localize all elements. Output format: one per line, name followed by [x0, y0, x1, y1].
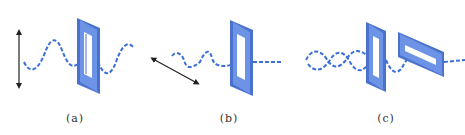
caption-c: (c) [371, 112, 401, 125]
panel-c [306, 22, 465, 92]
horizontal-polarizer [398, 32, 444, 77]
wave-unpolarized-2 [308, 53, 370, 71]
vertical-polarizer [230, 20, 253, 96]
diagonal-polarization-arrow-icon [153, 59, 197, 83]
vertical-polarizer [366, 22, 386, 92]
caption-b: (b) [214, 112, 244, 125]
wave-incident [24, 40, 78, 69]
wave-transmitted [98, 44, 134, 73]
wave-transmitted [444, 60, 465, 62]
panel-b [153, 20, 283, 96]
wave-incident [172, 52, 234, 67]
caption-a: (a) [60, 112, 90, 125]
panel-a [19, 18, 134, 94]
vertical-polarizer [77, 18, 100, 94]
